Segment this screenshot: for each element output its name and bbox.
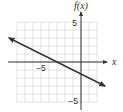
y-tick-label-neg5: −5	[68, 96, 78, 106]
y-tick-label-5: 5	[72, 18, 77, 28]
y-axis-label: f(x)	[74, 0, 89, 12]
x-tick-label-neg5: −5	[36, 63, 46, 73]
function-graph: f(x) x −5 5 −5	[0, 0, 123, 112]
x-axis-label: x	[111, 56, 117, 67]
